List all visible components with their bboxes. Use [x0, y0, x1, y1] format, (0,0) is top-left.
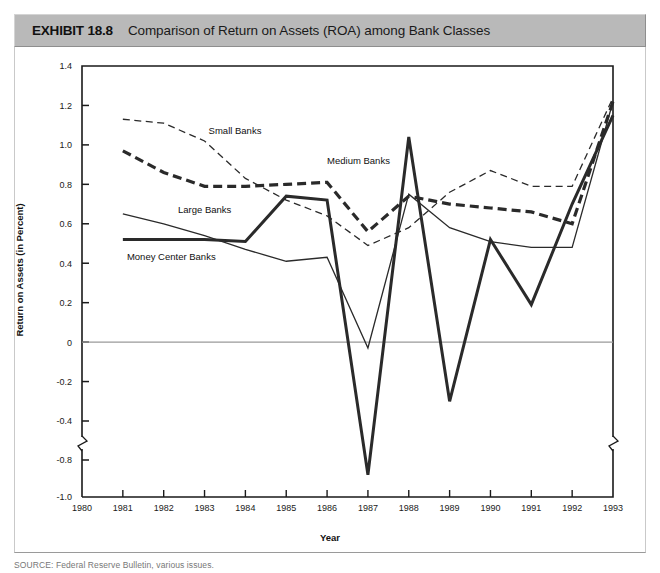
y-axis-title: Return on Assets (in Percent)	[14, 170, 25, 370]
source-note: SOURCE: Federal Reserve Bulletin, variou…	[14, 560, 214, 570]
y-axis-title-wrap: Return on Assets (in Percent)	[14, 170, 32, 370]
y-axis-tick-label: -0.4	[56, 416, 72, 426]
x-axis-tick-label: 1989	[440, 503, 460, 513]
y-axis-tick-label: 0	[67, 338, 72, 348]
series-line-large-banks	[123, 102, 613, 349]
x-axis-tick-label: 1986	[317, 503, 337, 513]
y-axis-tick-label: 0.4	[59, 259, 72, 269]
x-axis-tick-label: 1993	[603, 503, 623, 513]
x-axis-tick-label: 1983	[195, 503, 215, 513]
y-axis-tick-label: 1.4	[59, 61, 72, 71]
x-axis-tick-label: 1990	[480, 503, 500, 513]
exhibit-number-label: EXHIBIT 18.8	[32, 23, 113, 38]
series-label-small-banks: Small Banks	[209, 125, 262, 136]
x-axis-tick-label: 1984	[235, 503, 255, 513]
y-axis-tick-label: -0.8	[56, 455, 72, 465]
roa-line-chart: 1.41.21.00.80.60.40.20-0.2-0.4-0.8-1.019…	[15, 47, 647, 553]
x-axis-title: Year	[0, 532, 660, 543]
y-axis-tick-label: -0.2	[56, 377, 72, 387]
x-axis-tick-label: 1981	[113, 503, 133, 513]
series-line-small-banks	[123, 98, 613, 246]
chart-panel: 1.41.21.00.80.60.40.20-0.2-0.4-0.8-1.019…	[14, 47, 646, 553]
series-label-large-banks: Large Banks	[178, 204, 232, 215]
y-axis-tick-label: 1.2	[59, 101, 72, 111]
exhibit-title: Comparison of Return on Assets (ROA) amo…	[128, 23, 490, 38]
x-axis-tick-label: 1980	[72, 503, 92, 513]
exhibit-page: EXHIBIT 18.8 Comparison of Return on Ass…	[0, 0, 660, 573]
y-axis-tick-label: 0.6	[59, 219, 72, 229]
y-axis-tick-label: 1.0	[59, 140, 72, 150]
x-axis-tick-label: 1982	[154, 503, 174, 513]
y-axis-tick-label: 0.8	[59, 180, 72, 190]
x-axis-tick-label: 1987	[358, 503, 378, 513]
x-axis-tick-label: 1988	[399, 503, 419, 513]
series-label-medium-banks: Medium Banks	[327, 155, 390, 166]
series-line-money-center-banks	[123, 115, 613, 474]
x-axis-tick-label: 1991	[521, 503, 541, 513]
x-axis-tick-label: 1985	[276, 503, 296, 513]
series-label-money-center-banks: Money Center Banks	[127, 251, 216, 262]
y-axis-tick-label: -1.0	[56, 492, 72, 502]
x-axis-tick-label: 1992	[562, 503, 582, 513]
y-axis-tick-label: 0.2	[59, 298, 72, 308]
exhibit-header: EXHIBIT 18.8 Comparison of Return on Ass…	[14, 14, 646, 47]
